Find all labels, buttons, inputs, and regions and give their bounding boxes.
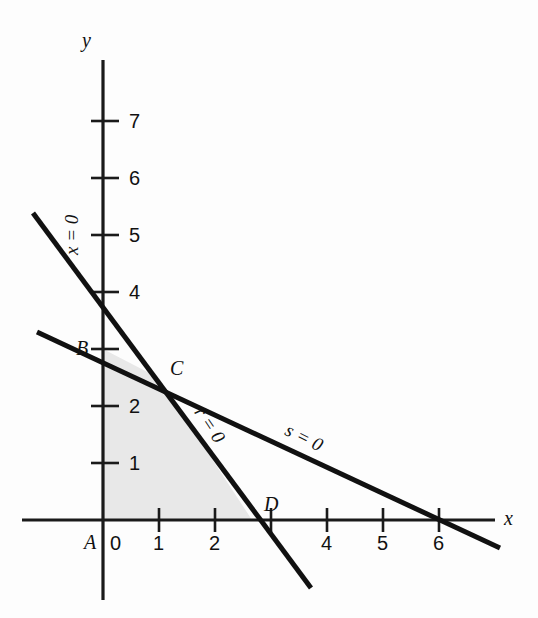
y-tick-label-6: 6	[129, 168, 140, 188]
vertex-label-D: D	[264, 494, 278, 514]
y-tick-label-1: 1	[129, 453, 140, 473]
x-tick-label-6: 6	[433, 533, 444, 553]
y-tick-label-4: 4	[129, 282, 140, 302]
y-tick-label-7: 7	[129, 111, 140, 131]
constraint-line-r	[33, 213, 311, 588]
y-axis-label: y	[82, 30, 91, 50]
x-axis-label: x	[504, 508, 513, 528]
vertex-label-C: C	[170, 358, 183, 378]
plot-canvas	[0, 0, 538, 618]
line-label-x-equals-zero: x = 0	[62, 215, 81, 255]
x-tick-label-2: 2	[209, 533, 220, 553]
x-tick-label-4: 4	[321, 533, 332, 553]
graph-figure: y x 7 6 5 4 2 1 0 1 2 4 5 6 A B C D x = …	[0, 0, 538, 618]
x-tick-label-1: 1	[153, 533, 164, 553]
y-tick-label-5: 5	[129, 225, 140, 245]
vertex-label-B: B	[76, 338, 88, 358]
x-tick-label-0: 0	[110, 533, 121, 553]
vertex-label-A: A	[84, 532, 96, 552]
y-tick-label-2: 2	[129, 396, 140, 416]
x-tick-label-5: 5	[377, 533, 388, 553]
